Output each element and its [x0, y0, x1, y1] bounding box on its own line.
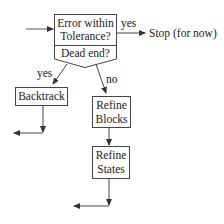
- edge-label-yes-stop: yes: [121, 17, 136, 30]
- refine-blocks-line1: Refine: [92, 99, 131, 112]
- decision-question-line2: Tolerance?: [54, 30, 117, 43]
- refine-blocks-line2: Blocks: [92, 113, 131, 126]
- yes-backtrack-arrow: [53, 64, 67, 84]
- no-refine-arrow: [96, 64, 106, 93]
- backtrack-label: Backtrack: [15, 90, 68, 103]
- edge-label-no: no: [106, 73, 118, 86]
- edge-label-yes-backtrack: yes: [37, 67, 52, 80]
- refine-states-line1: Refine: [92, 149, 130, 162]
- dead-end-label: Dead end?: [54, 47, 117, 60]
- refine-states-line2: States: [92, 163, 130, 176]
- stop-terminal-label: Stop (for now): [149, 27, 217, 40]
- decision-question-line1: Error within: [54, 17, 117, 30]
